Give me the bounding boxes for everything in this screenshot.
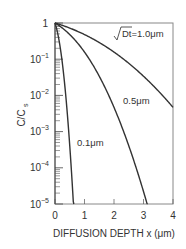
y-tick-base: 10 [30,199,42,210]
y-tick-base: 10 [30,126,42,137]
diffusion-profile-chart: 1 10 −1 10 −2 10 −3 10 −4 10 −5 0 1 2 3 … [0,0,186,249]
y-tick-base: 10 [30,90,42,101]
curve-0_1um [55,23,74,204]
x-tick-label-4: 4 [170,210,176,221]
y-tick-exp: −3 [41,124,49,131]
y-tick-exp: −1 [41,52,49,59]
y-axis-label: C/C s [16,103,29,127]
y-tick-label-1e-1: 10 −1 [30,52,49,65]
y-axis-ticks [55,23,63,204]
curve-0_5um [55,23,148,204]
label-0.5um: 0.5μm [123,95,150,106]
x-tick-label-3: 3 [141,210,147,221]
y-axis-label-sub: s [22,103,29,107]
y-tick-label-1e-5: 10 −5 [30,197,49,210]
x-tick-label-1: 1 [82,210,88,221]
x-tick-label-2: 2 [111,210,117,221]
y-tick-label-1: 1 [42,18,48,29]
y-axis-label-main: C/C [16,109,27,126]
label-0.1um: 0.1μm [77,137,104,148]
y-tick-exp: −2 [41,88,49,95]
y-tick-base: 10 [30,162,42,173]
plot-frame [55,23,173,204]
y-tick-label-1e-4: 10 −4 [30,160,49,173]
y-tick-label-1e-3: 10 −3 [30,124,49,137]
y-tick-base: 10 [30,54,42,65]
label-1um: Dt=1.0μm [122,28,164,39]
y-tick-label-1e-2: 10 −2 [30,88,49,101]
annotation-curve-1um: Dt=1.0μm [114,27,164,40]
y-tick-exp: −5 [41,197,49,204]
x-tick-label-0: 0 [52,210,58,221]
curves [55,23,173,204]
y-tick-exp: −4 [41,160,49,167]
x-axis-label: DIFFUSION DEPTH x (μm) [53,228,175,239]
